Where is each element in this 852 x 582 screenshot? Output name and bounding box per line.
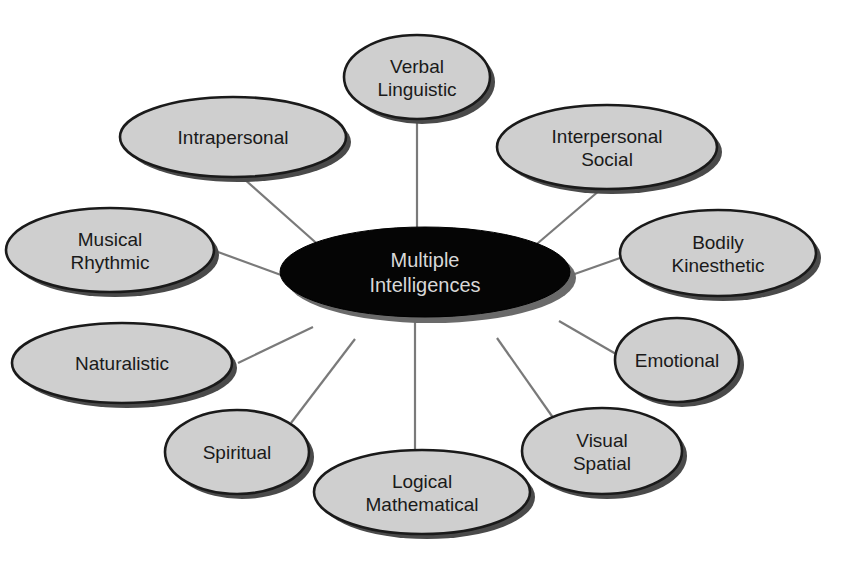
node-ellipse: [314, 450, 530, 534]
node-verbal-linguistic: VerbalLinguistic: [344, 35, 495, 124]
node-label-line: Mathematical: [366, 494, 479, 515]
node-ellipse: [6, 208, 214, 292]
node-label-line: Spiritual: [203, 442, 272, 463]
node-label-line: Interpersonal: [552, 126, 663, 147]
node-label-line: Visual: [576, 430, 627, 451]
node-label-line: Intrapersonal: [178, 127, 289, 148]
node-label-line: Musical: [78, 229, 142, 250]
center-ellipse: [280, 227, 570, 317]
node-ellipse: [344, 35, 490, 119]
node-label-line: Kinesthetic: [672, 255, 765, 276]
node-label-line: Spatial: [573, 453, 631, 474]
node-label-line: Naturalistic: [75, 353, 169, 374]
node-ellipse: [620, 210, 816, 296]
mind-map-diagram: VerbalLinguisticIntrapersonalInterperson…: [0, 0, 852, 582]
connector-spiritual: [291, 339, 355, 423]
connector-bodily-kinesthetic: [569, 258, 620, 276]
center-node: MultipleIntelligences: [280, 227, 576, 323]
node-label-line: Linguistic: [377, 79, 456, 100]
node-label-line: Logical: [392, 471, 452, 492]
node-label-line: Emotional: [635, 350, 720, 371]
node-emotional: Emotional: [615, 318, 744, 407]
node-label-line: Verbal: [390, 56, 444, 77]
node-ellipse: [522, 408, 682, 494]
node-label-line: Multiple: [391, 249, 460, 271]
node-label-line: Intelligences: [369, 274, 480, 296]
connector-interpersonal-social: [531, 190, 600, 249]
node-label-line: Social: [581, 149, 633, 170]
node-musical-rhythmic: MusicalRhythmic: [6, 208, 219, 297]
node-label-line: Bodily: [692, 232, 744, 253]
connector-naturalistic: [238, 327, 313, 363]
connector-intrapersonal: [243, 178, 323, 249]
node-label-line: Rhythmic: [70, 252, 149, 273]
node-intrapersonal: Intrapersonal: [120, 97, 351, 182]
node-bodily-kinesthetic: BodilyKinesthetic: [620, 210, 821, 301]
node-visual-spatial: VisualSpatial: [522, 408, 687, 499]
connector-musical-rhythmic: [218, 252, 281, 275]
node-naturalistic: Naturalistic: [12, 323, 237, 408]
node-interpersonal-social: InterpersonalSocial: [497, 105, 722, 194]
node-ellipse: [497, 105, 717, 189]
node-spiritual: Spiritual: [165, 410, 314, 499]
connector-emotional: [559, 321, 616, 354]
node-logical-mathematical: LogicalMathematical: [314, 450, 535, 539]
connector-visual-spatial: [497, 338, 554, 419]
